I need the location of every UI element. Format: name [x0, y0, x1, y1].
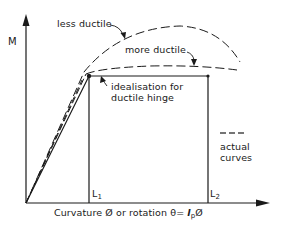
L1-marker: L1	[92, 188, 102, 203]
legend-label-line1: actual	[220, 141, 250, 152]
x-axis-arrow-icon	[256, 200, 270, 207]
idealisation-label-line1: idealisation for	[111, 81, 183, 92]
more-ductile-label: more ductile	[125, 44, 186, 55]
idealisation-label-line2: ductile hinge	[111, 92, 174, 103]
y-axis-label: M	[8, 36, 17, 47]
legend-label-line2: curves	[220, 152, 252, 163]
less-ductile-label: less ductile	[57, 18, 112, 29]
more-ductile-leader	[187, 52, 194, 60]
y-axis-arrow-icon	[23, 14, 30, 26]
more-ductile-curve	[86, 66, 237, 74]
x-axis-label: Curvature Ø or rotation θ= lpØ	[54, 207, 203, 222]
L2-marker: L2	[210, 188, 220, 203]
moment-curvature-diagram	[0, 0, 288, 228]
